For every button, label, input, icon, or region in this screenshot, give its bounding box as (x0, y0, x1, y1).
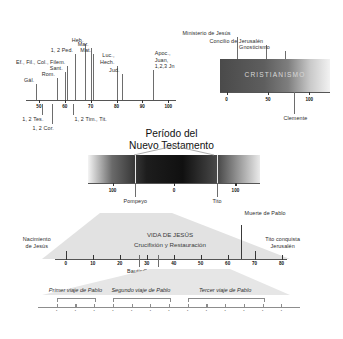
axis-tick (91, 100, 92, 103)
axis-tick (282, 255, 283, 260)
axis-tick-label: • (164, 309, 174, 313)
axis-tick (93, 255, 94, 260)
band-divider (217, 155, 218, 183)
event-label: Gnosticismo (223, 44, 287, 51)
event-stem-below (294, 92, 295, 114)
axis-tick (117, 100, 118, 103)
book-label-below: 1, 2 Tim., Tit. (75, 116, 111, 123)
axis-tick (201, 255, 202, 260)
event-stem-below (135, 183, 136, 197)
axis-tick (147, 255, 148, 260)
event-label: Nacimiento de Jesús (14, 236, 60, 249)
axis-tick (188, 304, 189, 307)
event-label: Ministerio de Jesús (175, 30, 239, 37)
event-label-below: Clemente (278, 115, 312, 122)
axis-tick-label: • (239, 309, 249, 313)
jesus-life-events-above: Nacimiento de JesúsMuerte de PabloTito c… (0, 213, 343, 259)
book-label: Jud. (30, 67, 122, 74)
axis-tick-label: • (70, 309, 80, 313)
axis-tick (39, 100, 40, 103)
axis-tick-label: • (258, 309, 268, 313)
event-stem-below (139, 255, 140, 267)
nt-period-events-below: PompeyoTito (88, 183, 260, 213)
book-stem (36, 84, 37, 100)
axis-tick (142, 100, 143, 103)
axis-tick (169, 304, 170, 307)
book-label: Apoc., Juan, 1,2,3 Jn (155, 50, 197, 70)
axis-tick (168, 100, 169, 103)
cristianismo-events-below: Clemente (205, 92, 343, 132)
axis-tick-label: • (183, 309, 193, 313)
axis-tick (244, 304, 245, 307)
band-divider (135, 155, 136, 183)
journey-label: Segundo viaje de Pablo (96, 287, 186, 293)
nt-books-panel: Gál.Rom.Sant.Ef., Fil., Col., Filem.1, 2… (0, 0, 200, 135)
axis-tick-label: • (201, 309, 211, 313)
axis-tick (255, 255, 256, 260)
axis-tick (113, 304, 114, 307)
axis-tick (66, 255, 67, 260)
event-label-below: Tito (199, 198, 235, 205)
axis-tick-label: • (220, 309, 230, 313)
book-label: Gál. (0, 77, 36, 84)
axis-tick (150, 304, 151, 307)
cristianismo-band-label: CRISTIANISMO (220, 71, 330, 78)
event-stem-below (158, 255, 159, 267)
book-label-below: 1, 2 Tes. (8, 116, 44, 123)
event-stem-below (217, 183, 218, 197)
nt-period-panel: 1000100 PompeyoTito (88, 155, 260, 213)
axis-tick (225, 304, 226, 307)
cristianismo-band: CRISTIANISMO (220, 59, 330, 92)
nt-period-band (88, 155, 260, 183)
jesus-life-ticks (55, 255, 287, 260)
event-stem (241, 225, 242, 259)
axis-tick-label: • (145, 309, 155, 313)
axis-tick (263, 304, 264, 307)
book-stem (153, 70, 154, 100)
book-stem (122, 74, 123, 100)
event-label: Muerte de Pablo (243, 210, 287, 217)
book-label: Luc., Hech. (25, 52, 117, 65)
journey-label: Tercer viaje de Pablo (180, 287, 270, 293)
axis-tick-label: • (52, 309, 62, 313)
axis-tick (75, 304, 76, 307)
axis-tick (206, 304, 207, 307)
book-stem-below (73, 104, 74, 115)
paul-journeys-ticks (38, 304, 300, 308)
axis-tick (57, 304, 58, 307)
axis-tick (281, 304, 282, 307)
cristianismo-events-above: Ministerio de JesúsConcilio de Jerusalén… (205, 22, 343, 59)
axis-tick (228, 255, 229, 260)
journey-brace (113, 298, 171, 302)
axis-tick (174, 255, 175, 260)
axis-tick (94, 304, 95, 307)
axis-tick (132, 304, 133, 307)
axis-tick-label: • (108, 309, 118, 313)
cristianismo-panel: CRISTIANISMO Ministerio de JesúsConcilio… (205, 22, 343, 132)
paul-journeys-panel: Primer viaje de PabloSegundo viaje de Pa… (0, 287, 343, 327)
event-stem (285, 51, 286, 59)
page-title-line1: Período del (0, 128, 343, 140)
axis-tick-label: • (127, 309, 137, 313)
journey-brace (188, 298, 265, 302)
paul-journey-labels: Primer viaje de PabloSegundo viaje de Pa… (0, 287, 343, 297)
paul-journeys-tick-numbers: ••••••••••••• (38, 309, 300, 317)
jesus-life-panel: VIDA DE JESÚS Crucifixión y Restauración… (0, 213, 343, 339)
event-label: Tito conquista Jerusalén (259, 236, 307, 249)
title-connector-icon (88, 145, 260, 157)
book-stem (57, 78, 58, 100)
book-stem (65, 72, 66, 100)
axis-tick (120, 255, 121, 260)
book-stem-below (42, 104, 43, 115)
journey-brace (57, 298, 96, 302)
book-stem-below (52, 104, 53, 124)
event-label-below: Pompeyo (117, 198, 153, 205)
axis-tick-label: • (89, 309, 99, 313)
axis-tick (65, 100, 66, 103)
axis-tick-label: • (276, 309, 286, 313)
nt-books-labels-above: Gál.Rom.Sant.Ef., Fil., Col., Filem.1, 2… (0, 0, 200, 100)
